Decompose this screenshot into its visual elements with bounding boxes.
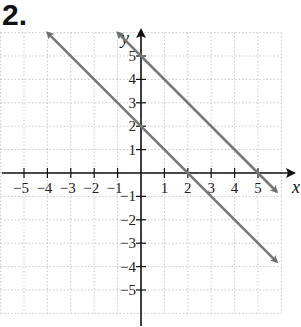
y-tick-label: −1: [120, 188, 136, 204]
x-tick-label: −2: [83, 180, 99, 196]
x-tick-label: −4: [36, 180, 52, 196]
y-tick-label: 1: [129, 142, 137, 158]
graph-line: [47, 33, 276, 262]
x-tick-label: 4: [231, 180, 239, 196]
x-tick-label: 2: [184, 180, 192, 196]
x-axis-label: x: [291, 177, 300, 197]
coordinate-graph: −5−4−3−2−112345−5−4−3−2−112345xy: [0, 0, 301, 327]
x-tick-label: 1: [161, 180, 169, 196]
y-tick-label: 4: [129, 71, 137, 87]
y-tick-label: −5: [120, 282, 136, 298]
x-tick-label: −5: [13, 180, 29, 196]
x-tick-label: 5: [254, 180, 262, 196]
y-tick-label: −2: [120, 212, 136, 228]
y-tick-label: −3: [120, 235, 136, 251]
x-tick-label: −3: [60, 180, 76, 196]
y-tick-label: −4: [120, 259, 136, 275]
y-tick-label: 3: [129, 95, 137, 111]
